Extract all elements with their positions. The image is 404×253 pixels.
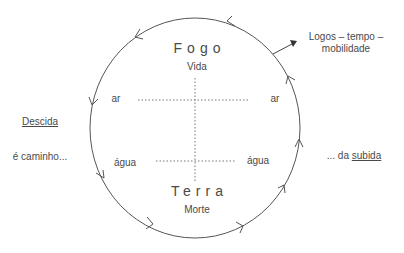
ascent-caption: ... da subida: [327, 151, 381, 161]
logos-annotation: Logos – tempo – mobilidade: [309, 31, 384, 55]
air-left-label: ar: [112, 94, 121, 104]
path-caption: é caminho...: [13, 152, 67, 162]
logos-line-2: mobilidade: [309, 43, 384, 55]
arrow-chevron-icon: [135, 29, 143, 39]
logos-line-1: Logos – tempo –: [309, 31, 384, 43]
element-earth-label: Terra: [166, 184, 228, 198]
life-label: Vida: [187, 62, 207, 72]
ascent-caption-emphasis: subida: [352, 150, 381, 161]
descent-heading: Descida: [22, 117, 58, 127]
death-label: Morte: [184, 205, 210, 215]
water-left-label: água: [114, 158, 136, 168]
logos-arrow-line: [273, 44, 292, 54]
arrow-chevron-icon: [278, 185, 285, 193]
logos-arrowhead-icon: [290, 40, 297, 47]
air-right-label: ar: [271, 94, 280, 104]
ascent-caption-prefix: ... da: [327, 150, 352, 161]
water-right-label: água: [247, 156, 269, 166]
element-fire-label: Fogo: [169, 41, 226, 55]
